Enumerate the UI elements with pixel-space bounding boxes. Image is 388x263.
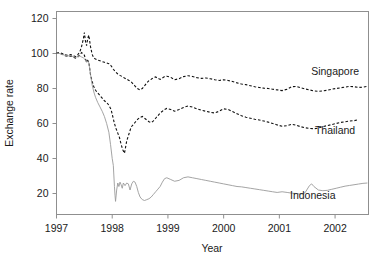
series-label-thailand: Thailand [315,124,355,136]
x-tick-label: 2000 [212,222,236,234]
y-tick-label: 60 [37,117,49,129]
x-tick-label: 2001 [268,222,292,234]
y-tick-label: 20 [37,187,49,199]
y-tick-label: 120 [31,12,49,24]
chart-canvas: 20406080100120 199719981999200020012002 … [0,0,388,263]
x-tick-label: 1999 [156,222,180,234]
y-tick-label: 80 [37,82,49,94]
y-tick-label: 40 [37,152,49,164]
series-label-singapore: Singapore [311,65,359,77]
series-label-indonesia: Indonesia [290,189,336,201]
exchange-rate-chart: 20406080100120 199719981999200020012002 … [0,0,388,263]
y-axis-title: Exchange rate [3,79,15,147]
x-axis-title: Year [201,242,223,254]
x-tick-label: 1997 [45,222,69,234]
x-tick-label: 1998 [101,222,125,234]
y-tick-label: 100 [31,47,49,59]
x-tick-label: 2002 [323,222,347,234]
